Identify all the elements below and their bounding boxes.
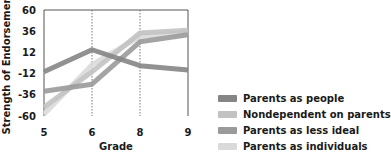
legend-swatch	[218, 127, 237, 134]
legend-swatch	[218, 111, 237, 118]
legend-label: Nondependent on parents	[243, 109, 391, 120]
y-tick-label: 60	[22, 5, 36, 16]
legend-swatch	[218, 95, 237, 102]
legend-item-nondependent-on-parents: Nondependent on parents	[218, 106, 391, 122]
x-tick-label: 5	[41, 127, 48, 138]
y-tick-label: 36	[22, 26, 36, 37]
y-tick-label: -60	[18, 111, 36, 122]
y-tick-label: -36	[18, 89, 36, 100]
series-line-parents-as-individuals	[44, 32, 188, 114]
series-lines	[44, 30, 188, 114]
x-axis-label: Grade	[99, 141, 133, 152]
legend-swatch	[218, 143, 237, 150]
legend-item-parents-as-less-ideal: Parents as less ideal	[218, 122, 391, 138]
x-axis-ticks: 5689	[41, 127, 192, 138]
y-tick-label: -12	[18, 68, 36, 79]
x-tick-label: 9	[185, 127, 192, 138]
legend-label: Parents as people	[243, 93, 344, 104]
legend-label: Parents as individuals	[243, 141, 368, 152]
x-tick-label: 6	[89, 127, 96, 138]
y-axis-ticks: 603612-12-36-60	[18, 5, 36, 122]
x-tick-label: 8	[137, 127, 144, 138]
legend-item-parents-as-individuals: Parents as individuals	[218, 138, 391, 154]
legend-label: Parents as less ideal	[243, 125, 359, 136]
y-axis-label: Strength of Endorsement	[1, 0, 12, 134]
legend: Parents as people Nondependent on parent…	[218, 90, 391, 154]
y-tick-label: 12	[22, 47, 36, 58]
legend-item-parents-as-people: Parents as people	[218, 90, 391, 106]
